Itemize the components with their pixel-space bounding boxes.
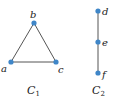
vertex-label-e: e	[102, 37, 108, 48]
vertex-a	[8, 59, 13, 64]
vertex-label-a: a	[1, 63, 7, 74]
graphs-figure: a b c C1 d e f C2	[0, 0, 113, 100]
graph-caption-c1: C1	[27, 84, 40, 98]
vertex-e	[95, 39, 100, 44]
vertex-b	[31, 20, 36, 25]
vertex-label-f: f	[101, 69, 108, 80]
graph-caption-c2: C2	[92, 84, 105, 98]
vertex-d	[95, 8, 100, 13]
vertex-label-b: b	[30, 9, 36, 20]
vertex-label-d: d	[102, 6, 108, 17]
vertex-label-c: c	[58, 64, 64, 75]
vertex-f	[95, 70, 100, 75]
graph-c2: d e f C2	[92, 6, 108, 98]
graph-c1: a b c C1	[1, 9, 64, 98]
edge-b-c	[34, 23, 56, 62]
diagram-canvas: a b c C1 d e f C2	[0, 0, 113, 100]
edge-a-b	[11, 23, 34, 62]
